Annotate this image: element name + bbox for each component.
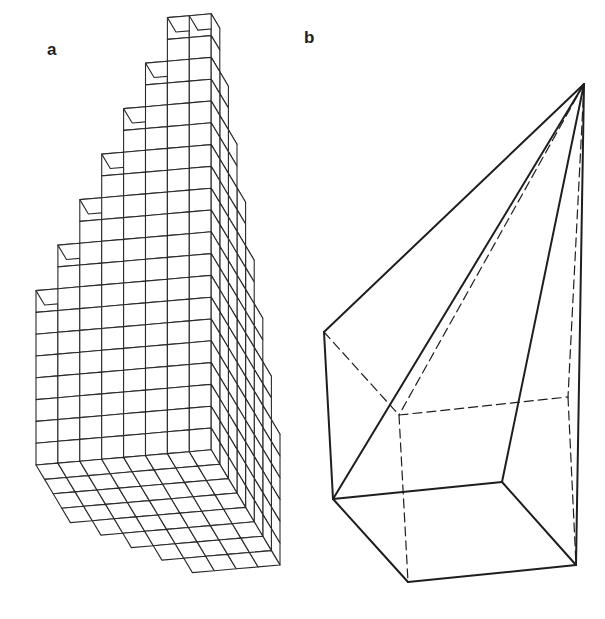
visible-edge [333,482,502,499]
visible-edge [333,499,408,582]
hidden-edge [399,397,568,415]
visible-edge [502,84,584,482]
hidden-edge [399,415,408,582]
panel-b-pyramid-diagram [0,0,605,619]
visible-edge [324,84,584,332]
hidden-edge [399,84,584,415]
hidden-edge [324,332,399,415]
visible-edge [502,482,576,565]
hidden-edge [568,397,576,565]
visible-edge [408,565,576,582]
visible-edge [333,84,584,499]
visible-edge [324,332,333,499]
